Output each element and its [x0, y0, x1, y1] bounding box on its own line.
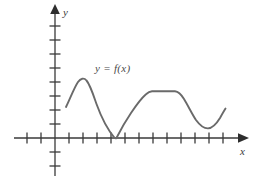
curve-equation-label: y = f(x): [94, 62, 131, 75]
y-axis-label: y: [62, 6, 68, 18]
plot-svg: y x y = f(x): [0, 0, 258, 183]
function-graph-figure: y x y = f(x): [0, 0, 258, 183]
x-axis-arrowhead: [238, 133, 249, 143]
x-axis-label: x: [239, 145, 245, 157]
function-curve: [66, 79, 226, 139]
y-axis-arrowhead: [50, 4, 60, 14]
